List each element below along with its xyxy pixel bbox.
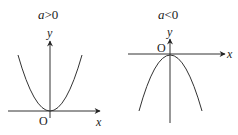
parabola-diagram: a>0 y x O a<0 y x O: [0, 0, 238, 135]
origin-label: O: [39, 114, 48, 128]
origin-label: O: [157, 41, 166, 55]
x-axis-label: x: [226, 47, 233, 61]
y-axis-label: y: [166, 25, 173, 39]
y-axis-label: y: [46, 26, 53, 40]
condition-label: a>0: [38, 7, 58, 22]
condition-label: a<0: [158, 7, 178, 22]
x-axis-label: x: [95, 115, 102, 129]
panel-a-positive: a>0 y x O: [8, 7, 102, 129]
panel-a-negative: a<0 y x O: [128, 7, 233, 123]
